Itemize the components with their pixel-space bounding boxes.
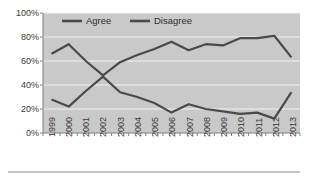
legend-label-agree: Agree (86, 15, 111, 26)
y-tick-label-40: 40% (21, 80, 39, 90)
x-tick-label-2004: 2004 (133, 117, 143, 137)
x-tick-label-2005: 2005 (150, 117, 160, 137)
legend-label-disagree: Disagree (154, 15, 192, 26)
x-tick-label-2006: 2006 (167, 117, 177, 137)
y-tick-label-60: 60% (21, 56, 39, 66)
x-tick-label-2002: 2002 (98, 117, 108, 137)
y-tick-label-0: 0% (26, 128, 39, 138)
x-tick-label-2013: 2013 (288, 117, 298, 137)
x-tick-label-2009: 2009 (219, 117, 229, 137)
y-tick-label-80: 80% (21, 32, 39, 42)
x-tick-label-2003: 2003 (116, 117, 126, 137)
x-tick-label-2008: 2008 (202, 117, 212, 137)
y-tick-label-20: 20% (21, 104, 39, 114)
x-tick-label-2007: 2007 (185, 117, 195, 137)
x-tick-label-2010: 2010 (236, 117, 246, 137)
x-tick-label-2001: 2001 (81, 117, 91, 137)
line-chart-figure: 0% 20% 40% 60% 80% 100% 1999 2000 2001 2… (0, 0, 311, 184)
x-tick-label-2011: 2011 (254, 118, 264, 137)
x-tick-label-2012: 2012 (271, 117, 281, 137)
y-tick-label-100: 100% (16, 8, 39, 18)
x-tick-label-1999: 1999 (47, 117, 57, 137)
x-tick-label-2000: 2000 (64, 117, 74, 137)
